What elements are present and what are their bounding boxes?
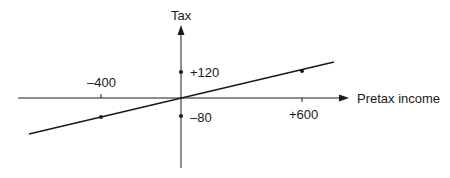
point-y-neg80 [179, 114, 183, 118]
x-axis-arrow-icon [339, 95, 349, 102]
x-axis-label: Pretax income [357, 92, 440, 105]
tax-diagram [0, 0, 450, 178]
point-neg400 [99, 115, 103, 119]
point-y-120 [179, 70, 183, 74]
y-tick-label-neg80: –80 [190, 111, 212, 124]
point-pos600 [300, 69, 304, 73]
x-tick-label-neg400: –400 [87, 76, 116, 89]
y-axis-arrow-icon [178, 25, 185, 35]
y-tick-label-pos120: +120 [190, 66, 219, 79]
y-axis-label: Tax [171, 9, 191, 22]
x-tick-label-pos600: +600 [289, 108, 318, 121]
